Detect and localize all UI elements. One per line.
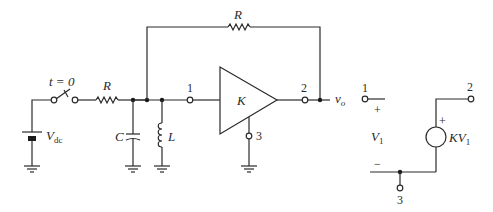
schematic-svg: Vdc t = 0 R C [0, 0, 493, 212]
minus-sign: − [374, 157, 381, 171]
capacitor-label: C [115, 129, 124, 144]
terminal-3 [246, 133, 252, 139]
model-terminal-2 [468, 96, 474, 102]
amplifier-gain-label: K [236, 93, 247, 108]
input-voltage-label: V1 [371, 129, 383, 146]
ground-icon [125, 166, 141, 172]
dc-source-branch: Vdc [22, 100, 62, 172]
feedback-resistor-label: R [233, 7, 242, 22]
dependent-source-label: KV1 [448, 130, 470, 147]
model-terminal-1-label: 1 [362, 81, 368, 95]
model-terminal-3-label: 3 [397, 193, 403, 207]
source-plus-sign: + [439, 114, 446, 128]
output-terminal: 2 vo [277, 81, 346, 108]
amplifier: K 3 [220, 67, 277, 172]
junction-dot [318, 98, 322, 102]
terminal-2-label: 2 [301, 81, 307, 95]
source-label: Vdc [46, 128, 62, 145]
terminal-3-label: 3 [256, 129, 262, 143]
model-terminal-1 [362, 96, 368, 102]
dependent-source [426, 127, 446, 147]
model-terminal-3 [397, 185, 403, 191]
terminal-2 [302, 97, 308, 103]
ground-icon [24, 166, 40, 172]
series-resistor: R [78, 78, 147, 103]
switch-time-label: t = 0 [49, 74, 75, 89]
battery-short-plate [28, 136, 36, 141]
ground-icon [154, 166, 170, 172]
ground-icon [241, 166, 257, 172]
output-voltage-label: vo [335, 91, 346, 108]
model-terminal-2-label: 2 [467, 80, 473, 94]
inductor-label: L [167, 129, 175, 144]
terminal-1-label: 1 [187, 81, 193, 95]
plus-sign: + [374, 103, 381, 117]
feedback-resistor: R [147, 7, 320, 100]
inductor: L [154, 100, 175, 172]
switch: t = 0 [49, 74, 78, 103]
input-terminal-1: 1 [187, 81, 220, 103]
series-resistor-label: R [102, 78, 111, 93]
amplifier-model: 1 + V1 − 3 + KV1 2 [362, 80, 474, 207]
circuit-diagram: Vdc t = 0 R C [0, 0, 493, 212]
capacitor: C [115, 100, 141, 172]
